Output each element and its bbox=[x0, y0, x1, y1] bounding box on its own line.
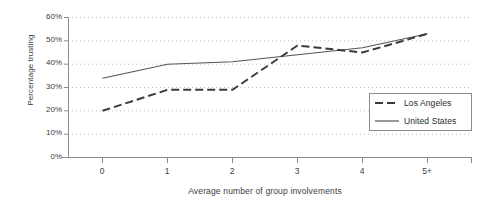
x-tick-label: 5+ bbox=[412, 166, 442, 177]
legend-label: United States bbox=[404, 116, 456, 126]
x-tick-label: 4 bbox=[347, 166, 377, 177]
y-axis bbox=[62, 18, 69, 158]
x-tick-label: 2 bbox=[217, 166, 247, 177]
x-tick-label: 3 bbox=[282, 166, 312, 177]
chart-legend: Los Angeles United States bbox=[369, 93, 472, 131]
legend-item-united-states: United States bbox=[370, 112, 471, 130]
x-tick-label: 1 bbox=[152, 166, 182, 177]
legend-item-los-angeles: Los Angeles bbox=[370, 94, 471, 112]
legend-label: Los Angeles bbox=[404, 98, 451, 108]
x-axis bbox=[68, 158, 472, 164]
x-axis-title: Average number of group involvements bbox=[102, 186, 428, 196]
x-axis-tick-labels: 0 1 2 3 4 5+ bbox=[0, 166, 498, 178]
dashed-line-swatch bbox=[374, 98, 400, 108]
x-tick-label: 0 bbox=[87, 166, 117, 177]
line-chart-figure: Percentage trusting 60% 50% 40% 30% 20% … bbox=[0, 0, 498, 211]
solid-line-swatch bbox=[374, 116, 400, 126]
